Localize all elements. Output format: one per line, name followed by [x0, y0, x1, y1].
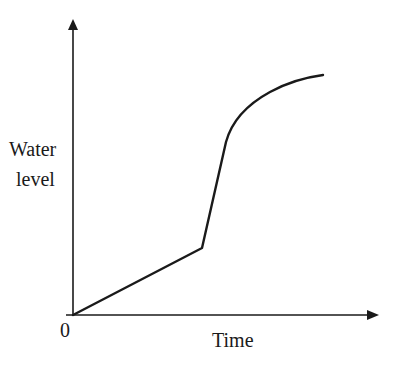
water-level-chart: [0, 0, 398, 371]
origin-label: 0: [60, 320, 70, 340]
y-axis-arrowhead-icon: [68, 19, 78, 30]
x-axis-arrowhead-icon: [367, 310, 379, 320]
water-level-curve: [73, 75, 323, 315]
x-axis-label: Time: [212, 330, 254, 350]
y-axis-label-line-2: level: [16, 169, 55, 189]
y-axis-label-line-1: Water: [9, 139, 56, 159]
